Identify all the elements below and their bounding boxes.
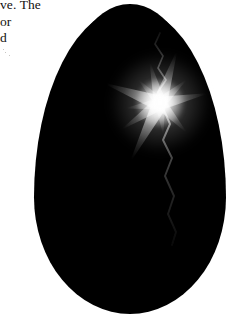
egg-figure <box>34 7 226 314</box>
text-line-2: or <box>0 14 62 31</box>
body-text-excerpt: ve. The or d <box>0 0 62 47</box>
scanned-page: ve. The or d <box>0 0 235 322</box>
paper-speck-0 <box>5 52 6 53</box>
paper-speck-1 <box>9 55 10 56</box>
text-line-3: d <box>0 30 62 47</box>
egg-top-taper <box>59 4 201 145</box>
text-line-1: ve. The <box>0 0 62 14</box>
paper-speck-2 <box>3 49 4 50</box>
